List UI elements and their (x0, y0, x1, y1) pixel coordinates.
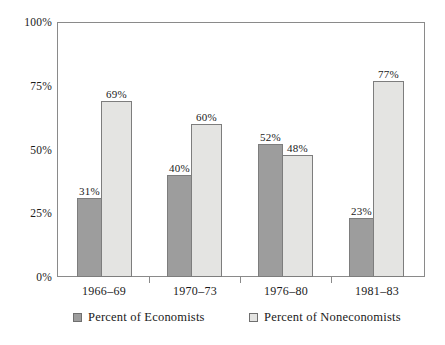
bar-value-label: 40% (169, 162, 190, 174)
y-tick-label-0: 0% (36, 271, 52, 283)
bars-layer: 31% 69% 40% 60% 52% 48% 23% (57, 22, 425, 277)
bar-value-label: 31% (79, 185, 100, 197)
legend-item-noneconomists[interactable]: Percent of Noneconomists (249, 310, 401, 325)
bar-value-label: 23% (351, 205, 372, 217)
legend-item-label: Percent of Economists (88, 310, 205, 325)
y-tick-label-75: 75% (30, 80, 52, 92)
bar-value-label: 77% (378, 68, 399, 80)
legend-item-label: Percent of Noneconomists (264, 310, 401, 325)
bar-noneconomists-1970-73[interactable]: 60% (191, 124, 222, 277)
x-cat-label-1981-83: 1981–83 (355, 284, 399, 299)
x-sep-tick-1 (149, 277, 150, 283)
x-cat-label-1970-73: 1970–73 (173, 284, 217, 299)
legend: Percent of Economists Percent of Nonecon… (57, 310, 425, 330)
bar-noneconomists-1966-69[interactable]: 69% (101, 101, 132, 277)
y-tick-label-25: 25% (30, 207, 52, 219)
bar-noneconomists-1981-83[interactable]: 77% (373, 81, 404, 277)
y-axis: 100% 75% 50% 25% 0% (0, 0, 52, 345)
bar-value-label: 60% (196, 111, 217, 123)
bar-noneconomists-1976-80[interactable]: 48% (282, 155, 313, 277)
y-tick-label-100: 100% (24, 16, 52, 28)
bar-group-1976-80: 52% 48% (258, 22, 332, 277)
bar-value-label: 48% (287, 142, 308, 154)
y-tick-label-50: 50% (30, 144, 52, 156)
bar-chart: 100% 75% 50% 25% 0% 31% 69% 40% 60% (0, 0, 445, 345)
x-cat-label-1966-69: 1966–69 (82, 284, 126, 299)
legend-item-economists[interactable]: Percent of Economists (73, 310, 205, 325)
bar-economists-1981-83[interactable]: 23% (349, 218, 374, 277)
bar-group-1981-83: 23% 77% (349, 22, 423, 277)
legend-swatch-icon (249, 313, 258, 322)
legend-swatch-icon (73, 313, 82, 322)
bar-value-label: 69% (106, 88, 127, 100)
x-sep-tick-3 (331, 277, 332, 283)
x-sep-tick-2 (240, 277, 241, 283)
bar-economists-1966-69[interactable]: 31% (77, 198, 102, 277)
x-cat-label-1976-80: 1976–80 (264, 284, 308, 299)
bar-group-1970-73: 40% 60% (167, 22, 241, 277)
bar-value-label: 52% (260, 131, 281, 143)
bar-group-1966-69: 31% 69% (77, 22, 151, 277)
bar-economists-1970-73[interactable]: 40% (167, 175, 192, 277)
bar-economists-1976-80[interactable]: 52% (258, 144, 283, 277)
